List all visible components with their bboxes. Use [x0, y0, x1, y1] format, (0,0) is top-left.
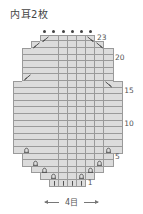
- twisted-increase-icon: [31, 160, 40, 167]
- row-number-label: 23: [97, 34, 107, 42]
- grid-cell: [95, 167, 105, 174]
- grid-cell: [113, 88, 123, 95]
- grid-cell: [104, 74, 114, 81]
- twisted-increase-icon: [22, 147, 31, 154]
- right-decrease-icon: [104, 81, 113, 88]
- twisted-increase-icon: [95, 160, 104, 167]
- arrow-right-icon: [84, 202, 98, 203]
- grid-cell: [104, 61, 114, 68]
- grid-cell: [113, 81, 123, 88]
- grid-cell: [104, 160, 114, 167]
- right-decrease-icon: [86, 36, 95, 43]
- twisted-increase-icon: [86, 167, 95, 174]
- grid-cell: [104, 68, 114, 75]
- grid-cell: [104, 154, 114, 161]
- twisted-increase-icon: [40, 167, 49, 174]
- grid-cell: [113, 140, 123, 147]
- knit-stitch-icon: [68, 180, 77, 187]
- knit-stitch-icon: [59, 180, 68, 187]
- bind-off-dot-icon: [89, 30, 92, 33]
- row-number-label: 5: [115, 153, 120, 161]
- row-number-label: 20: [115, 54, 125, 62]
- bind-off-dot-icon: [52, 30, 55, 33]
- knit-stitch-icon: [77, 180, 86, 187]
- grid-cell: [113, 114, 123, 121]
- grid-cell: [113, 107, 123, 114]
- twisted-increase-icon: [49, 173, 58, 180]
- grid-cell: [113, 101, 123, 108]
- twisted-increase-icon: [77, 173, 86, 180]
- twisted-increase-icon: [104, 147, 113, 154]
- grid-cell: [104, 55, 114, 62]
- grid-cell: [113, 134, 123, 141]
- grid-cell: [113, 127, 123, 134]
- grid-cell: [77, 180, 87, 187]
- row-number-label: 1: [88, 179, 93, 187]
- bind-off-dot-icon: [43, 30, 46, 33]
- grid-cell: [113, 121, 123, 128]
- stitch-count-footer: 4目: [0, 196, 143, 207]
- grid-cell: [95, 41, 105, 48]
- right-decrease-icon: [95, 42, 104, 49]
- grid-cell: [113, 94, 123, 101]
- grid-cell: [86, 35, 96, 42]
- stitch-count-label: 4目: [65, 198, 78, 207]
- bind-off-dot-icon: [80, 30, 83, 33]
- arrow-left-icon: [45, 202, 59, 203]
- bind-off-dot-icon: [71, 30, 74, 33]
- row-number-label: 15: [124, 87, 134, 95]
- bind-off-dot-icon: [62, 30, 65, 33]
- grid-cell: [104, 48, 114, 55]
- knitting-chart: 1510152023: [0, 0, 143, 214]
- row-number-label: 10: [124, 120, 134, 128]
